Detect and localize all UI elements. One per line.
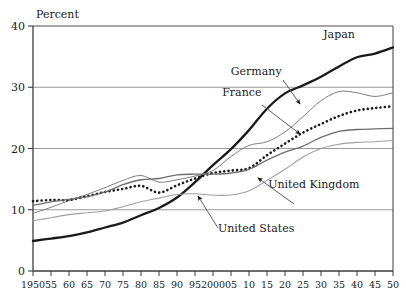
x-tick-label-2030: 30 <box>315 279 327 290</box>
series-label-france: France <box>222 86 261 99</box>
x-tick-label-2015: 15 <box>261 279 273 290</box>
x-tick-label-2020: 20 <box>279 279 291 290</box>
x-tick-label-2045: 45 <box>369 279 381 290</box>
series-label-germany: Germany <box>231 65 283 78</box>
x-tick-label-1955: 55 <box>45 279 57 290</box>
line-chart-canvas: 010203040 195055606570758085909520000510… <box>0 0 406 299</box>
x-tick-label-1975: 75 <box>117 279 129 290</box>
x-tick-label-1960: 60 <box>63 279 75 290</box>
y-tick-label-40: 40 <box>11 20 25 33</box>
y-tick-label-30: 30 <box>11 81 25 94</box>
series-label-united-states: United States <box>218 222 295 235</box>
x-tick-label-2035: 35 <box>333 279 345 290</box>
x-tick-label-2025: 25 <box>297 279 309 290</box>
y-tick-label-10: 10 <box>11 204 25 217</box>
series-label-japan: Japan <box>322 28 355 41</box>
y-tick-label-0: 0 <box>18 265 25 278</box>
x-tick-label-2050: 50 <box>387 279 399 290</box>
x-tick-label-2010: 10 <box>243 279 255 290</box>
x-tick-label-1950: 1950 <box>21 279 45 290</box>
x-tick-label-2000: 2000 <box>201 279 225 290</box>
x-tick-label-2040: 40 <box>351 279 363 290</box>
x-tick-label-1970: 70 <box>99 279 111 290</box>
x-tick-label-1965: 65 <box>81 279 93 290</box>
x-tick-label-1985: 85 <box>153 279 165 290</box>
x-tick-label-1995: 95 <box>189 279 201 290</box>
y-axis-unit-label: Percent <box>36 8 79 21</box>
y-axis-ticks: 010203040 <box>11 20 33 278</box>
y-tick-label-20: 20 <box>11 143 25 156</box>
x-tick-label-1980: 80 <box>135 279 147 290</box>
series-label-united-kingdom: United Kingdom <box>268 178 360 191</box>
x-tick-label-2005: 05 <box>225 279 237 290</box>
x-tick-label-1990: 90 <box>171 279 183 290</box>
x-axis-ticks: 1950556065707580859095200005101520253035… <box>21 271 399 290</box>
chart-figure: 010203040 195055606570758085909520000510… <box>0 0 406 299</box>
